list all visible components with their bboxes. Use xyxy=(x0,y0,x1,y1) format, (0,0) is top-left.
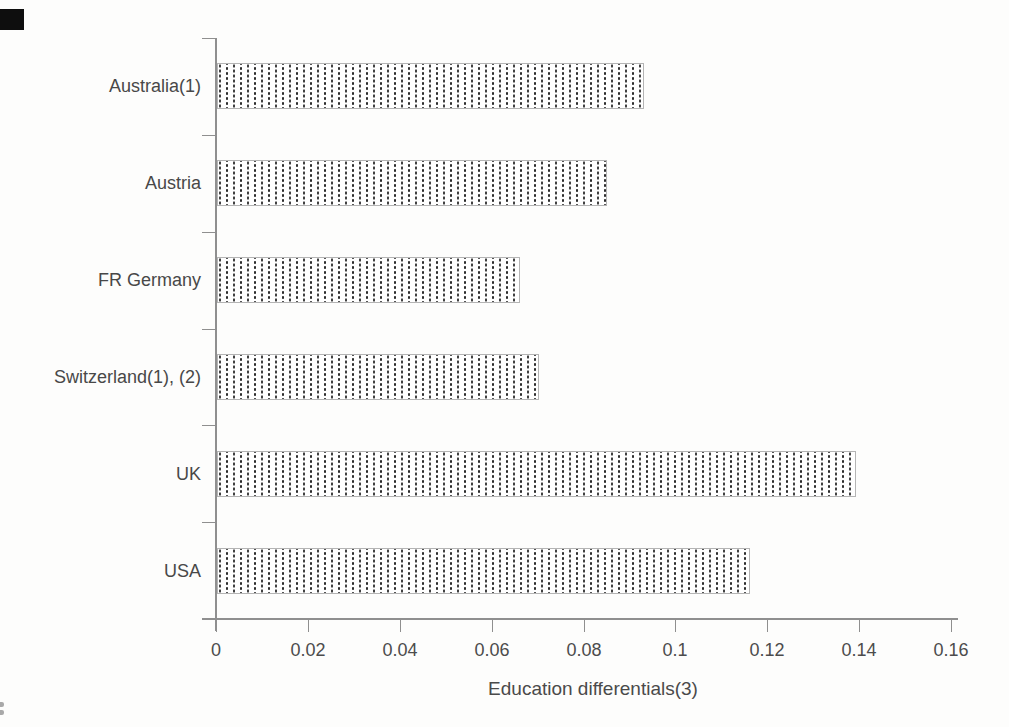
x-axis-tick-label: 0.12 xyxy=(735,640,799,660)
x-axis-tick-label: 0.04 xyxy=(368,640,432,660)
x-axis-tick xyxy=(675,619,676,632)
x-axis-tick-label: 0.02 xyxy=(276,640,340,660)
x-axis-tick xyxy=(308,619,309,632)
y-axis-tick xyxy=(202,329,216,330)
bar-austria xyxy=(217,160,607,206)
category-label: Australia(1) xyxy=(109,74,201,98)
x-axis-tick-label: 0 xyxy=(184,640,248,660)
bar-fr-germany xyxy=(217,257,520,303)
bar-australia xyxy=(217,63,644,109)
category-label: Austria xyxy=(145,171,201,195)
x-axis-tick xyxy=(859,619,860,632)
x-axis-line xyxy=(202,618,958,620)
x-axis-tick-label: 0.14 xyxy=(827,640,891,660)
scan-artifact-corner-mark xyxy=(0,9,24,30)
y-axis-line xyxy=(215,38,217,631)
y-axis-tick xyxy=(202,522,216,523)
category-label: FR Germany xyxy=(98,268,201,292)
x-axis-tick xyxy=(216,619,217,632)
scan-artifact-edge-mark xyxy=(0,710,4,715)
x-axis-tick xyxy=(492,619,493,632)
y-axis-tick xyxy=(202,425,216,426)
x-axis-tick-label: 0.08 xyxy=(552,640,616,660)
x-axis-tick xyxy=(400,619,401,632)
x-axis-tick xyxy=(767,619,768,632)
y-axis-tick xyxy=(202,135,216,136)
category-label: UK xyxy=(176,462,201,486)
x-axis-tick-label: 0.1 xyxy=(643,640,707,660)
y-axis-tick xyxy=(202,38,216,39)
x-axis-tick xyxy=(584,619,585,632)
x-axis-tick-label: 0.06 xyxy=(460,640,524,660)
x-axis-tick xyxy=(951,619,952,632)
bar-usa xyxy=(217,548,750,594)
bar-uk xyxy=(217,451,856,497)
scan-artifact-edge-mark xyxy=(0,702,4,707)
x-axis-tick-label: 0.16 xyxy=(919,640,983,660)
scanned-chart-page: 00.020.040.060.080.10.120.140.16Australi… xyxy=(0,0,1009,727)
y-axis-tick xyxy=(202,232,216,233)
category-label: Switzerland(1), (2) xyxy=(54,365,201,389)
x-axis-title: Education differentials(3) xyxy=(216,678,970,700)
category-label: USA xyxy=(164,559,201,583)
bar-switzerland xyxy=(217,354,539,400)
